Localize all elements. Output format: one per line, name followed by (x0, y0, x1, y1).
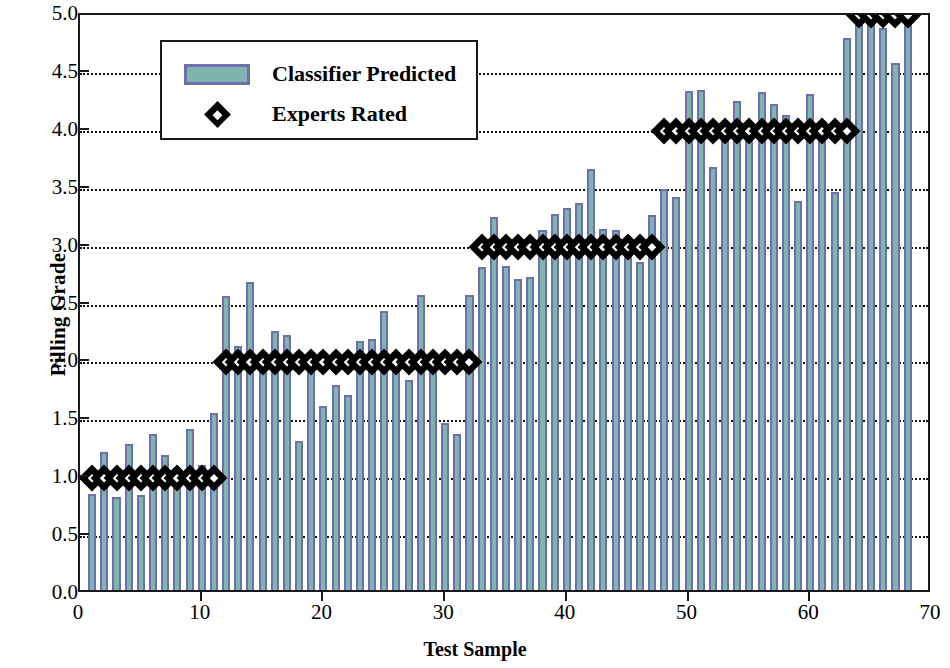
bar (563, 208, 571, 590)
bar (429, 370, 437, 590)
x-tick-label: 30 (433, 600, 454, 625)
bar (721, 127, 729, 590)
x-tick-label: 20 (311, 600, 332, 625)
bar (648, 215, 656, 590)
legend-item-classifier-predicted: Classifier Predicted (162, 52, 476, 96)
x-tick-label: 70 (920, 600, 941, 625)
x-axis-title: Test Sample (0, 638, 950, 661)
x-tick-mark (443, 592, 445, 601)
y-axis-ticks: 0.00.51.01.52.02.53.03.54.04.55.0 (0, 0, 78, 668)
y-tick-mark (78, 128, 89, 130)
bar (855, 15, 863, 590)
y-tick-mark (78, 359, 89, 361)
x-tick-mark (200, 592, 202, 601)
y-tick-label: 5.0 (10, 1, 78, 26)
bar (295, 441, 303, 590)
bar (745, 133, 753, 590)
gridline (80, 189, 928, 191)
x-tick-mark (321, 592, 323, 601)
y-tick-label: 2.0 (10, 348, 78, 373)
bar (782, 115, 790, 590)
legend-bar-swatch-icon (162, 64, 272, 85)
bar (137, 495, 145, 590)
bar (624, 248, 632, 590)
bar (88, 494, 96, 590)
bar (112, 497, 120, 590)
bar (234, 346, 242, 590)
bar (831, 192, 839, 590)
bar (356, 341, 364, 590)
y-tick-label: 4.5 (10, 58, 78, 83)
y-tick-mark (78, 302, 89, 304)
bar (685, 91, 693, 590)
bar (526, 277, 534, 590)
y-tick-label: 3.0 (10, 232, 78, 257)
bar (417, 295, 425, 590)
y-tick-label: 3.5 (10, 174, 78, 199)
bar (818, 136, 826, 590)
bar (259, 369, 267, 590)
y-tick-mark (78, 244, 89, 246)
legend-item-experts-rated: Experts Rated (162, 92, 476, 136)
bar (392, 361, 400, 590)
bar (222, 296, 230, 590)
y-tick-label: 0.5 (10, 522, 78, 547)
y-tick-label: 1.0 (10, 464, 78, 489)
legend-diamond-marker-icon (162, 105, 272, 124)
y-tick-mark (78, 186, 89, 188)
y-tick-mark (78, 70, 89, 72)
x-tick-label: 10 (189, 600, 210, 625)
bar (149, 434, 157, 590)
bar (891, 63, 899, 590)
bar (490, 217, 498, 590)
bar (867, 15, 875, 590)
bar (904, 15, 912, 590)
y-tick-label: 2.5 (10, 290, 78, 315)
x-tick-label: 40 (554, 600, 575, 625)
chart-legend: Classifier Predicted Experts Rated (160, 40, 478, 140)
y-tick-label: 4.0 (10, 116, 78, 141)
bar (478, 267, 486, 590)
bar (441, 423, 449, 590)
bar (210, 413, 218, 590)
bar (587, 169, 595, 591)
bar (453, 434, 461, 590)
x-tick-mark (687, 592, 689, 601)
bar (806, 94, 814, 590)
bar (612, 230, 620, 590)
bar (368, 339, 376, 590)
y-tick-mark (78, 475, 89, 477)
x-tick-label: 60 (798, 600, 819, 625)
y-tick-label: 0.0 (10, 580, 78, 605)
bar (733, 101, 741, 590)
bar (538, 230, 546, 590)
y-tick-mark (78, 417, 89, 419)
bar (319, 406, 327, 590)
bar (186, 429, 194, 590)
bar (344, 395, 352, 590)
bar (709, 167, 717, 590)
x-tick-label: 50 (676, 600, 697, 625)
bar (551, 214, 559, 590)
bar (332, 385, 340, 590)
bar (672, 197, 680, 590)
bar (879, 28, 887, 590)
bar (599, 229, 607, 590)
bar (770, 104, 778, 590)
bar (405, 380, 413, 590)
y-tick-mark (78, 533, 89, 535)
x-tick-label: 0 (73, 600, 84, 625)
bar (514, 279, 522, 591)
pilling-grade-chart: Pilling Grade 0.00.51.01.52.02.53.03.54.… (0, 0, 950, 668)
bar (758, 92, 766, 590)
bar (794, 201, 802, 590)
bar (697, 90, 705, 590)
bar (636, 262, 644, 590)
bar (246, 282, 254, 590)
bar (465, 295, 473, 590)
x-tick-mark (565, 592, 567, 601)
legend-label-classifier-predicted: Classifier Predicted (272, 61, 456, 87)
bar (307, 353, 315, 590)
bar (575, 203, 583, 590)
legend-label-experts-rated: Experts Rated (272, 101, 407, 127)
